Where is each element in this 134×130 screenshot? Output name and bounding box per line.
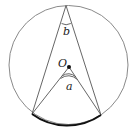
label-b: b — [63, 25, 70, 38]
circle — [9, 6, 128, 125]
radius-right — [69, 67, 101, 115]
radius-left — [32, 67, 69, 114]
label-a: a — [66, 80, 73, 93]
center-point — [67, 65, 71, 69]
diagram-canvas: b O a — [0, 0, 134, 130]
label-O: O — [58, 57, 67, 70]
intercepted-arc — [32, 114, 101, 126]
circle-angle-diagram: b O a — [0, 0, 134, 130]
chord-right — [66, 6, 101, 116]
